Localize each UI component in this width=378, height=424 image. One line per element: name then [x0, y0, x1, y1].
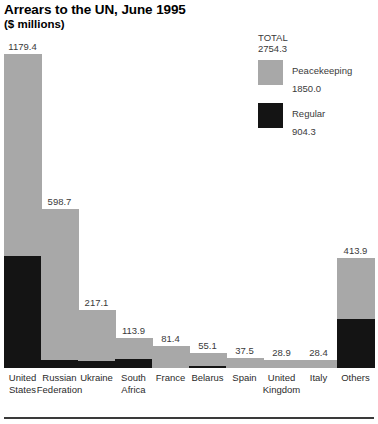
bar-value-label: 217.1 [85, 297, 109, 308]
axis-label-line: Spain [232, 372, 256, 383]
bar-stack [300, 360, 338, 368]
bar-ukraine[interactable]: 217.1 [78, 310, 116, 368]
bar-stack [115, 338, 153, 368]
bar-segment-peacekeeping [263, 360, 301, 368]
bar-spain[interactable]: 37.5 [226, 358, 264, 368]
bar-value-label: 55.1 [198, 340, 217, 351]
axis-label-others: Others [331, 372, 378, 384]
bar-segment-peacekeeping [41, 209, 79, 360]
axis-label-line: France [156, 372, 186, 383]
bar-segment-peacekeeping [226, 358, 264, 368]
bar-value-label: 413.9 [344, 245, 368, 256]
axis-label-line: United [9, 372, 36, 383]
bar-segment-peacekeeping [189, 353, 227, 365]
bar-segment-peacekeeping [4, 54, 42, 256]
bar-segment-peacekeeping [78, 310, 116, 361]
bar-united-kingdom[interactable]: 28.9 [263, 360, 301, 368]
axis-label-line: Africa [121, 384, 145, 395]
bar-segment-peacekeeping [152, 346, 190, 368]
bar-stack [337, 258, 375, 368]
bar-value-label: 1179.4 [8, 41, 36, 52]
bar-segment-peacekeeping [300, 360, 338, 368]
bar-france[interactable]: 81.4 [152, 346, 190, 368]
bar-stack [263, 360, 301, 368]
bar-segment-peacekeeping [337, 258, 375, 319]
bar-segment-regular [41, 360, 79, 368]
bar-segment-peacekeeping [115, 338, 153, 359]
axis-label-line: South [121, 372, 146, 383]
bar-segment-regular [115, 359, 153, 368]
bar-stack [226, 358, 264, 368]
bar-value-label: 37.5 [235, 345, 254, 356]
bar-italy[interactable]: 28.4 [300, 360, 338, 368]
bar-segment-regular [78, 361, 116, 368]
bar-value-label: 598.7 [48, 196, 72, 207]
bar-belarus[interactable]: 55.1 [189, 353, 227, 368]
bar-stack [41, 209, 79, 368]
axis-label-line: States [9, 384, 36, 395]
bar-value-label: 113.9 [122, 325, 145, 336]
bar-south-africa[interactable]: 113.9 [115, 338, 153, 368]
bottom-divider [4, 417, 374, 419]
bar-russian-federation[interactable]: 598.7 [41, 209, 79, 368]
bar-segment-regular [189, 366, 227, 369]
bar-stack [152, 346, 190, 368]
bar-value-label: 28.4 [309, 347, 328, 358]
bar-others[interactable]: 413.9 [337, 258, 375, 368]
axis-label-line: Italy [310, 372, 327, 383]
bar-value-label: 28.9 [272, 347, 291, 358]
bar-stack [189, 353, 227, 368]
axis-label-line: Others [341, 372, 370, 383]
chart-plot-area: 1179.4UnitedStates598.7RussianFederation… [0, 0, 378, 424]
axis-label-line: Kingdom [263, 384, 301, 395]
axis-label-line: Federation [37, 384, 82, 395]
bar-stack [78, 310, 116, 368]
bar-stack [4, 54, 42, 368]
bar-segment-regular [4, 256, 42, 368]
bar-value-label: 81.4 [161, 333, 180, 344]
bar-united-states[interactable]: 1179.4 [4, 54, 42, 368]
axis-label-line: United [268, 372, 295, 383]
bar-segment-regular [337, 319, 375, 368]
